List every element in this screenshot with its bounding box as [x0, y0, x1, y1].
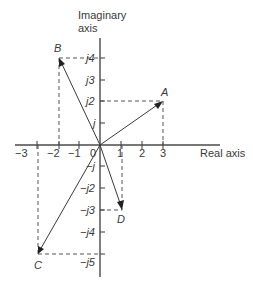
- phasor-a: [100, 101, 163, 145]
- arrowhead-icon: [117, 200, 124, 210]
- point-label-c: C: [34, 259, 42, 271]
- real-tick-label: 3: [160, 147, 166, 159]
- real-tick-label: −3: [15, 147, 28, 159]
- arrowhead-icon: [154, 101, 163, 109]
- arrowhead-icon: [59, 58, 65, 67]
- real-tick-label: −2: [47, 147, 60, 159]
- real-tick-label: 0: [90, 147, 96, 159]
- phasor-diagram: Imaginary axis Real axis −3 −2 −1 0 1 2 …: [0, 0, 253, 289]
- point-label-b: B: [54, 42, 61, 54]
- imaginary-axis-label-line2: axis: [78, 22, 98, 34]
- real-axis-label: Real axis: [200, 147, 246, 159]
- imag-tick-label: −j4: [80, 226, 95, 238]
- imaginary-axis-label: Imaginary: [78, 9, 127, 21]
- imag-tick-label: j3: [84, 74, 95, 86]
- imag-tick-label: −j2: [80, 182, 95, 194]
- real-tick-label: 1: [117, 147, 123, 159]
- imag-tick-label: j2: [84, 95, 95, 107]
- imag-tick-label: −j: [86, 160, 95, 172]
- imag-tick-label: j4: [84, 52, 95, 64]
- imag-tick-label: −j3: [80, 204, 96, 216]
- real-tick-label: 2: [139, 147, 145, 159]
- imag-tick-label: −j5: [80, 256, 96, 268]
- arrowhead-icon: [38, 246, 44, 254]
- real-tick-label: −1: [68, 147, 81, 159]
- point-label-d: D: [117, 213, 125, 225]
- point-label-a: A: [160, 86, 168, 98]
